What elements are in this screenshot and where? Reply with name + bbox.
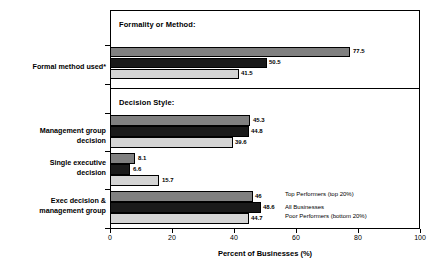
x-axis-tick-label: 40 bbox=[219, 234, 249, 241]
bar-poor-performers bbox=[110, 137, 233, 148]
bar-chart: Formality or Method: Decision Style: For… bbox=[0, 0, 446, 276]
x-axis-tick bbox=[358, 229, 359, 233]
x-axis-tick-label: 20 bbox=[157, 234, 187, 241]
x-axis-tick bbox=[110, 229, 111, 233]
x-axis-tick-label: 100 bbox=[405, 234, 435, 241]
x-axis-tick bbox=[296, 229, 297, 233]
x-axis-tick-label: 0 bbox=[95, 234, 125, 241]
bar-value-label: 44.8 bbox=[251, 128, 263, 134]
legend-item-top-performers: Top Performers (top 20%) bbox=[285, 191, 354, 198]
bar-top-performers bbox=[110, 153, 135, 164]
section-title-formality: Formality or Method: bbox=[119, 20, 196, 29]
category-label-exec-decision-management-group: Exec decision & management group bbox=[0, 196, 106, 215]
section-title-decision-style: Decision Style: bbox=[119, 98, 174, 107]
bar-all-businesses bbox=[110, 202, 261, 213]
x-axis-tick-label: 80 bbox=[343, 234, 373, 241]
y-axis-tick bbox=[105, 151, 110, 152]
bar-all-businesses bbox=[110, 58, 267, 69]
section-divider bbox=[110, 88, 420, 89]
bar-value-label: 45.3 bbox=[253, 117, 265, 123]
category-label-management-group-decision: Management group decision bbox=[0, 126, 106, 145]
bar-top-performers bbox=[110, 47, 350, 58]
bar-top-performers bbox=[110, 191, 253, 202]
bar-value-label: 77.5 bbox=[353, 48, 365, 54]
bar-value-label: 15.7 bbox=[162, 177, 174, 183]
bar-value-label: 6.6 bbox=[133, 166, 141, 172]
bar-value-label: 50.5 bbox=[269, 59, 281, 65]
y-axis-tick bbox=[105, 189, 110, 190]
bar-poor-performers bbox=[110, 69, 239, 80]
bar-value-label: 8.1 bbox=[138, 155, 146, 161]
category-label-single-executive-decision: Single executive decision bbox=[0, 158, 106, 177]
legend-item-all-businesses: All Businesses bbox=[285, 204, 324, 211]
bar-poor-performers bbox=[110, 213, 249, 224]
bar-value-label: 44.7 bbox=[251, 215, 263, 221]
bar-value-label: 46 bbox=[255, 193, 262, 199]
x-axis-tick bbox=[172, 229, 173, 233]
category-label-formal-method-used: Formal method used* bbox=[0, 62, 106, 72]
legend-item-poor-performers: Poor Performers (bottom 20%) bbox=[285, 213, 367, 220]
y-axis-tick bbox=[105, 84, 110, 85]
y-axis-tick bbox=[105, 113, 110, 114]
bar-value-label: 48.6 bbox=[263, 204, 275, 210]
bar-value-label: 41.5 bbox=[241, 70, 253, 76]
bar-value-label: 39.6 bbox=[235, 139, 247, 145]
bar-all-businesses bbox=[110, 164, 130, 175]
bar-top-performers bbox=[110, 115, 250, 126]
bar-all-businesses bbox=[110, 126, 249, 137]
x-axis-tick-label: 60 bbox=[281, 234, 311, 241]
x-axis-tick bbox=[420, 229, 421, 233]
bar-poor-performers bbox=[110, 175, 159, 186]
x-axis-tick bbox=[234, 229, 235, 233]
x-axis-title: Percent of Businesses (%) bbox=[110, 249, 420, 258]
